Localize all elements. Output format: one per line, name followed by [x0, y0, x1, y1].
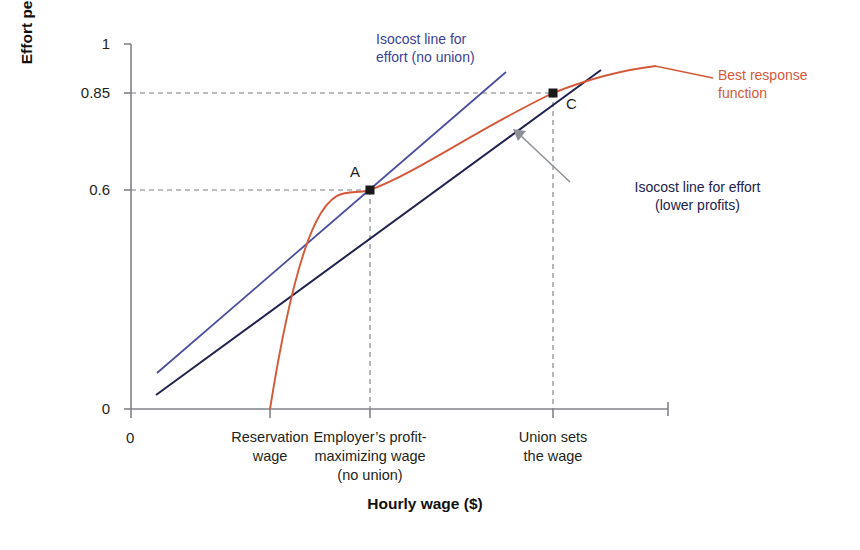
annotation-isocost-no-union: Isocost line for effort (no union) [376, 30, 475, 66]
x-tick-label-union-wage: Union sets the wage [483, 428, 623, 466]
y-tick-label-1: 1 [102, 34, 110, 53]
best-response-function-curve [270, 66, 656, 409]
isocost-lower-profits-arrow-shaft [519, 134, 570, 182]
annotation-isocost-lower-profits-line2: (lower profits) [590, 196, 805, 214]
isocost-line-lower-profits [156, 70, 601, 395]
x-tick-label-profit-max-wage-line1: Employer’s profit- [285, 428, 455, 447]
data-point-c-marker [549, 89, 558, 98]
annotation-isocost-no-union-line2: effort (no union) [376, 48, 475, 66]
x-tick-label-union-wage-line1: Union sets [483, 428, 623, 447]
chart-figure: 1 0.85 0.6 0 Effort per hour 0 Reservati… [0, 0, 860, 550]
isocost-line-no-union [157, 72, 506, 373]
x-tick-label-profit-max-wage-line2: maximizing wage [285, 447, 455, 466]
annotation-best-response-function: Best response function [718, 66, 860, 102]
x-tick-label-union-wage-line2: the wage [483, 447, 623, 466]
data-point-label-c: C [566, 95, 577, 112]
y-tick-label-06: 0.6 [89, 180, 110, 199]
annotation-isocost-no-union-line1: Isocost line for [376, 30, 475, 48]
x-tick-label-origin: 0 [126, 428, 134, 447]
y-axis-title: Effort per hour [18, 0, 36, 120]
annotation-best-response-function-line1: Best response function [718, 66, 860, 102]
x-axis-title: Hourly wage ($) [325, 495, 525, 513]
data-point-a-marker [366, 186, 375, 195]
x-tick-label-profit-max-wage: Employer’s profit- maximizing wage (no u… [285, 428, 455, 485]
x-tick-label-profit-max-wage-line3: (no union) [285, 466, 455, 485]
annotation-isocost-lower-profits-line1: Isocost line for effort [590, 178, 805, 196]
annotation-isocost-lower-profits: Isocost line for effort (lower profits) [590, 178, 805, 214]
y-tick-label-0: 0 [102, 399, 110, 418]
best-response-leader-line [655, 66, 713, 78]
data-point-label-a: A [350, 163, 360, 180]
y-tick-label-085: 0.85 [81, 83, 110, 102]
